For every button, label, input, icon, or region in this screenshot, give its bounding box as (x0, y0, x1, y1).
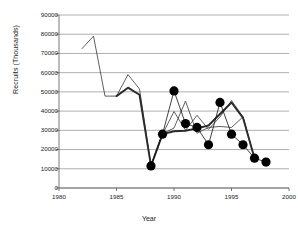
x-tick-label: 1980 (39, 194, 79, 200)
y-tick-label: 90000 (14, 12, 58, 18)
data-point-marker (227, 130, 236, 139)
data-point-marker (261, 157, 270, 166)
y-tick-label: 60000 (14, 70, 58, 76)
x-tick-label: 1990 (154, 194, 194, 200)
y-tick-label: 10000 (14, 166, 58, 172)
series-line-thin-line-1 (82, 36, 255, 165)
x-tick-label: 2000 (269, 194, 298, 200)
data-series-layer (82, 36, 271, 170)
y-tick-label: 40000 (14, 108, 58, 114)
data-point-marker (169, 86, 178, 95)
x-tick-label: 1995 (212, 194, 252, 200)
y-tick-label: 20000 (14, 146, 58, 152)
y-tick-label: 80000 (14, 31, 58, 37)
data-point-marker (250, 154, 259, 163)
data-point-marker (204, 140, 213, 149)
x-tick-label: 1985 (97, 194, 137, 200)
chart-container: Recruits (Thousands) Year 01000020000300… (0, 0, 298, 233)
y-tick-label: 70000 (14, 50, 58, 56)
data-point-marker (215, 98, 224, 107)
y-tick-label: 50000 (14, 89, 58, 95)
y-tick-label: 0 (14, 185, 58, 191)
data-point-marker (146, 161, 155, 170)
data-point-marker (181, 119, 190, 128)
data-point-marker (158, 130, 167, 139)
data-point-marker (192, 123, 201, 132)
axis-lines (56, 15, 289, 191)
y-tick-label: 30000 (14, 127, 58, 133)
series-line-marker-series (151, 91, 266, 166)
data-point-marker (238, 140, 247, 149)
